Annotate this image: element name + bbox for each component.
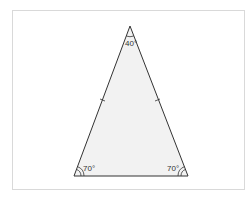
apex-angle-label: 40° (125, 39, 137, 48)
bottom-left-angle-label: 70° (83, 164, 95, 173)
triangle-diagram: 40° 70° 70° (0, 0, 252, 198)
triangle-shape (74, 26, 188, 176)
bottom-right-angle-label: 70° (167, 164, 179, 173)
